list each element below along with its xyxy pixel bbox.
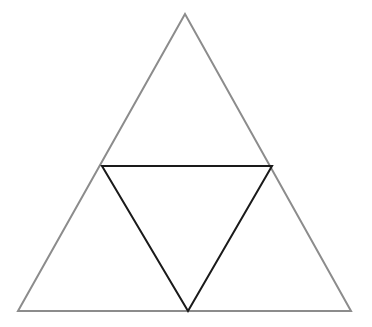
outer-triangle: [18, 14, 351, 311]
inner-midpoint-triangle: [102, 166, 272, 311]
diagram-canvas: [0, 0, 372, 327]
triangle-diagram: [0, 0, 372, 327]
